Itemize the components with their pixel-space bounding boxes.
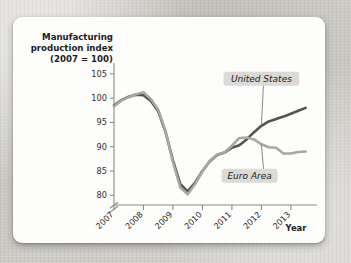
chart-canvas: Manufacturing production index (2007 = 1… (13, 17, 325, 243)
y-tick-label: 105 (91, 69, 107, 79)
callout-united-states: United States (224, 72, 300, 126)
callout-leader-united-states (261, 85, 263, 126)
callout-leader-euro-area (261, 144, 263, 170)
y-tick-label: 80 (97, 190, 107, 200)
figure-card: Manufacturing production index (2007 = 1… (13, 17, 325, 243)
chart-title-line3: (2007 = 100) (50, 54, 113, 64)
y-tick-label: 85 (97, 166, 107, 176)
y-tick-label: 90 (97, 142, 107, 152)
y-tick-group: 80859095100105 (91, 69, 114, 200)
y-tick-label: 95 (97, 117, 107, 127)
x-tick-group: 2007200820092010201120122013 (94, 205, 293, 231)
x-tick-label: 2011 (212, 209, 234, 231)
callout-label-euro-area: Euro Area (227, 171, 271, 181)
x-axis-title: Year (285, 223, 308, 233)
chart-title-group: Manufacturing production index (2007 = 1… (31, 32, 114, 64)
x-tick-label: 2007 (94, 209, 116, 231)
x-tick-label: 2008 (123, 209, 145, 231)
x-tick-label: 2012 (241, 209, 263, 231)
chart-title-line2: production index (31, 43, 114, 53)
y-tick-label: 100 (91, 93, 107, 103)
callout-label-united-states: United States (231, 74, 292, 84)
chart-title-line1: Manufacturing (42, 32, 113, 42)
x-tick-label: 2009 (153, 209, 175, 231)
line-chart: Manufacturing production index (2007 = 1… (13, 17, 325, 243)
x-tick-label: 2010 (182, 209, 204, 231)
